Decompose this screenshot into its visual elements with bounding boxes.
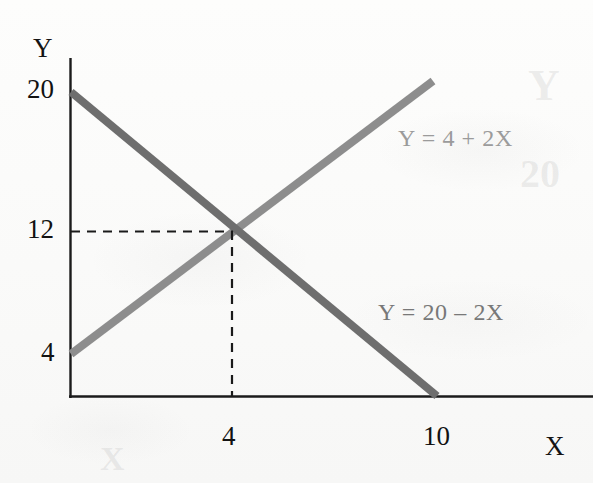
plot-canvas [0,0,593,483]
x-tick-4: 4 [222,421,236,452]
chart-figure: Y 20 X Y X 20 12 4 4 10 Y = 4 + 2X Y = 2… [0,0,593,483]
demand-line [71,92,437,396]
y-tick-20: 20 [27,74,54,105]
y-axis-label: Y [33,33,53,64]
y-tick-12: 12 [27,214,54,245]
x-axis-label: X [545,431,565,462]
supply-equation-label: Y = 4 + 2X [398,125,513,152]
demand-equation-label: Y = 20 – 2X [378,299,504,326]
x-tick-10: 10 [423,421,450,452]
y-tick-4: 4 [41,337,55,368]
